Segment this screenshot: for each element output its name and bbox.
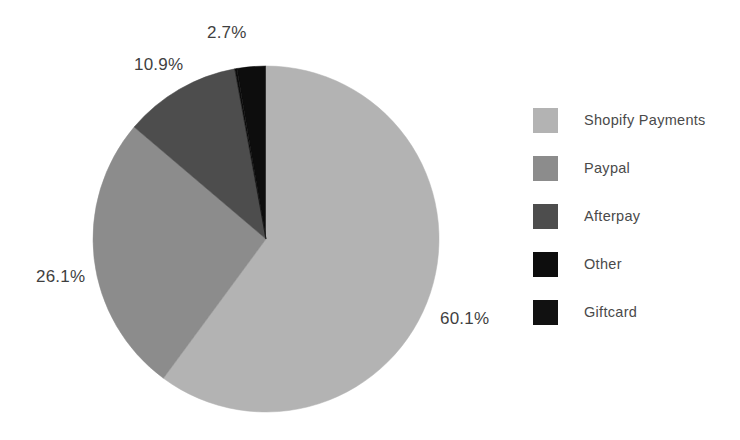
legend-swatch-icon (533, 108, 558, 133)
pie-slice-group (93, 66, 439, 412)
legend-item-label: Other (584, 257, 622, 272)
legend-item-shopify-payments[interactable]: Shopify Payments (533, 108, 733, 133)
legend: Shopify PaymentsPaypalAfterpayOtherGiftc… (533, 108, 733, 348)
legend-item-giftcard[interactable]: Giftcard (533, 300, 733, 325)
legend-item-label: Shopify Payments (584, 113, 706, 128)
data-label-shopify-payments: 60.1% (440, 310, 489, 327)
data-label-paypal: 26.1% (36, 268, 85, 285)
legend-swatch-icon (533, 300, 558, 325)
legend-item-afterpay[interactable]: Afterpay (533, 204, 733, 229)
legend-swatch-icon (533, 204, 558, 229)
pie-svg (0, 0, 500, 440)
pie-plot-area: 2.7% 10.9% 26.1% 60.1% (0, 0, 500, 440)
legend-swatch-icon (533, 156, 558, 181)
data-label-other: 2.7% (207, 24, 247, 41)
pie-chart: 2.7% 10.9% 26.1% 60.1% Shopify PaymentsP… (0, 0, 740, 440)
data-label-afterpay: 10.9% (134, 56, 183, 73)
legend-item-label: Afterpay (584, 209, 640, 224)
legend-item-label: Paypal (584, 161, 630, 176)
legend-swatch-icon (533, 252, 558, 277)
legend-item-other[interactable]: Other (533, 252, 733, 277)
legend-item-paypal[interactable]: Paypal (533, 156, 733, 181)
legend-item-label: Giftcard (584, 305, 637, 320)
